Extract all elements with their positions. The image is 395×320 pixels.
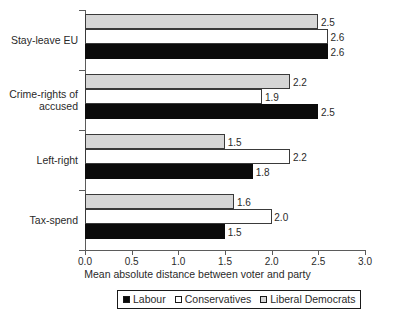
- x-axis-tick: [85, 250, 86, 255]
- bar-stay-leave-eu-liberal-democrats[interactable]: [85, 14, 318, 29]
- bar-value-stay-leave-eu-conservatives: 2.6: [331, 31, 345, 42]
- legend-swatch-labour-icon: [123, 296, 130, 303]
- x-axis-tick: [225, 250, 226, 255]
- bar-value-left-right-conservatives: 2.2: [293, 151, 307, 162]
- bar-value-tax-spend-labour: 1.5: [228, 226, 242, 237]
- chart-figure: 0.0 0.5 1.0 1.5 2.0 2.5 3.0 Stay-leave E…: [0, 0, 395, 320]
- bar-tax-spend-conservatives[interactable]: [85, 209, 272, 224]
- x-tick-label-4: 2.0: [265, 256, 279, 267]
- x-tick-label-5: 2.5: [311, 256, 325, 267]
- category-label-crime-rights-of-accused: Crime-rights of accused: [0, 88, 78, 112]
- x-axis-tick: [132, 250, 133, 255]
- bar-tax-spend-labour[interactable]: [85, 224, 225, 239]
- bar-value-crime-rights-labour: 2.5: [321, 106, 335, 117]
- bar-left-right-labour[interactable]: [85, 164, 253, 179]
- legend-entry-liberal-democrats[interactable]: Liberal Democrats: [260, 293, 355, 305]
- x-tick-label-0: 0.0: [78, 256, 92, 267]
- category-label-stay-leave-eu: Stay-leave EU: [0, 34, 78, 46]
- bar-value-left-right-liberal-democrats: 1.5: [228, 136, 242, 147]
- bar-crime-rights-labour[interactable]: [85, 104, 318, 119]
- bar-stay-leave-eu-labour[interactable]: [85, 44, 328, 59]
- bar-stay-leave-eu-conservatives[interactable]: [85, 29, 328, 44]
- bar-left-right-liberal-democrats[interactable]: [85, 134, 225, 149]
- legend-swatch-conservatives-icon: [175, 296, 182, 303]
- bar-crime-rights-liberal-democrats[interactable]: [85, 74, 290, 89]
- bar-value-left-right-labour: 1.8: [256, 166, 270, 177]
- bar-value-crime-rights-conservatives: 1.9: [265, 91, 279, 102]
- bar-value-stay-leave-eu-liberal-democrats: 2.5: [321, 16, 335, 27]
- category-label-left-right: Left-right: [0, 154, 78, 166]
- legend-label-liberal-democrats: Liberal Democrats: [270, 293, 355, 305]
- x-axis-title: Mean absolute distance between voter and…: [0, 268, 395, 280]
- legend-entry-conservatives[interactable]: Conservatives: [175, 293, 252, 305]
- x-tick-label-3: 1.5: [218, 256, 232, 267]
- x-axis-tick: [178, 250, 179, 255]
- bar-value-crime-rights-liberal-democrats: 2.2: [293, 76, 307, 87]
- x-axis-tick: [272, 250, 273, 255]
- bar-value-stay-leave-eu-labour: 2.6: [331, 46, 345, 57]
- bar-value-tax-spend-liberal-democrats: 1.6: [237, 196, 251, 207]
- bar-value-tax-spend-conservatives: 2.0: [274, 211, 288, 222]
- x-axis-tick: [318, 250, 319, 255]
- legend-label-labour: Labour: [133, 293, 166, 305]
- legend-label-conservatives: Conservatives: [185, 293, 252, 305]
- chart-legend: Labour Conservatives Liberal Democrats: [117, 290, 361, 309]
- bar-crime-rights-conservatives[interactable]: [85, 89, 262, 104]
- x-tick-label-1: 0.5: [125, 256, 139, 267]
- bar-left-right-conservatives[interactable]: [85, 149, 290, 164]
- bar-tax-spend-liberal-democrats[interactable]: [85, 194, 234, 209]
- plot-area: 2.5 2.6 2.6 2.2 1.9 2.5 1.5 2.2 1.8 1.6 …: [85, 10, 365, 250]
- x-tick-label-6: 3.0: [358, 256, 372, 267]
- category-label-tax-spend: Tax-spend: [0, 214, 78, 226]
- x-axis-tick: [365, 250, 366, 255]
- legend-entry-labour[interactable]: Labour: [123, 293, 166, 305]
- x-tick-label-2: 1.0: [171, 256, 185, 267]
- legend-swatch-liberal-democrats-icon: [260, 296, 267, 303]
